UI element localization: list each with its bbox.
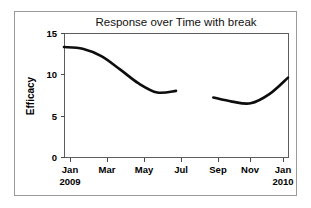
x-tick-label-sep: Sep [209, 164, 227, 175]
x-tick-label-jan-2009: Jan [62, 164, 79, 175]
y-tick-label-15: 15 [46, 28, 57, 39]
x-tick-label-year-2009: 2009 [59, 176, 80, 187]
x-tick-label-mar: Mar [99, 164, 116, 175]
x-tick-label-year-2010: 2010 [272, 176, 293, 187]
series-line-segment-2 [213, 78, 288, 104]
x-tick-label-jul: Jul [174, 164, 188, 175]
y-tick-label-10: 10 [46, 69, 57, 80]
series-line-segment-1 [64, 47, 176, 93]
x-tick-label-may: May [135, 164, 154, 175]
y-tick-label-0: 0 [52, 152, 57, 163]
line-chart: Response over Time with break 15 10 5 0 … [0, 0, 311, 208]
chart-figure: Response over Time with break 15 10 5 0 … [0, 0, 311, 208]
y-tick-label-5: 5 [52, 111, 58, 122]
x-tick-label-nov: Nov [241, 164, 260, 175]
x-tick-label-jan-2010: Jan [275, 164, 292, 175]
chart-title: Response over Time with break [95, 16, 256, 28]
y-axis-title: Efficacy [25, 76, 36, 115]
